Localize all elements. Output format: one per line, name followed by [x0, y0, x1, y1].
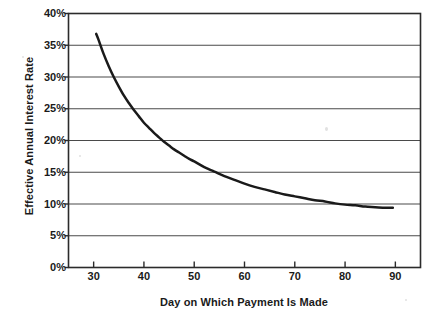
data-series-line [96, 34, 393, 208]
x-axis-title: Day on Which Payment Is Made [68, 296, 420, 308]
chart-container: Effective Annual Interest Rate 0%5%10%15… [0, 0, 433, 318]
scan-speckle [325, 127, 328, 131]
scan-speckle [22, 56, 24, 58]
scan-speckle [79, 155, 81, 157]
scan-speckle [405, 299, 407, 301]
plot-area [0, 0, 433, 318]
